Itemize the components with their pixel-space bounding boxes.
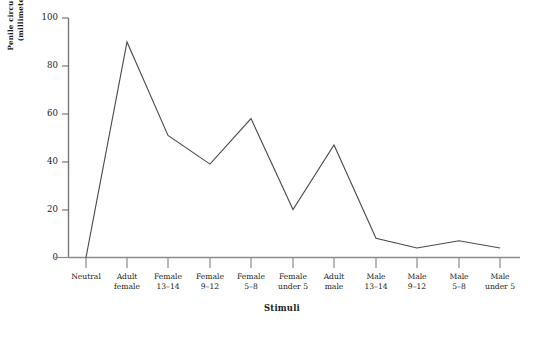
x-axis-title: Stimuli <box>222 303 342 313</box>
x-tick-label-line-2: under 5 <box>473 282 527 292</box>
x-tick-label-line-1: Male <box>473 272 527 282</box>
data-series-line <box>86 42 500 258</box>
cutoff-caption-text <box>205 330 537 336</box>
line-chart: Penile circumference response (millimete… <box>0 0 541 337</box>
x-tick-label-male-under-5: Male under 5 <box>473 272 527 292</box>
